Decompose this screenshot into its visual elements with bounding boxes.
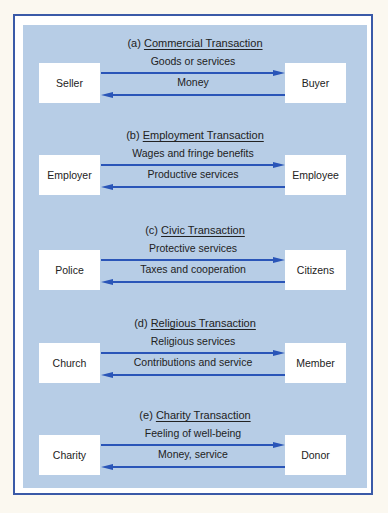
transaction-title-text: Charity Transaction <box>156 409 251 421</box>
transaction-title-text: Employment Transaction <box>143 129 264 141</box>
arrow-left-icon <box>101 371 285 379</box>
party-box-right: Donor <box>285 435 346 475</box>
party-label: Charity <box>53 449 86 461</box>
party-box-right: Buyer <box>285 63 346 103</box>
transaction-title: (e) Charity Transaction <box>23 409 367 422</box>
flow-label-to-right: Wages and fringe benefits <box>101 147 285 159</box>
party-box-right: Citizens <box>285 250 346 290</box>
party-box-left: Church <box>39 343 100 383</box>
transaction-title: (d) Religious Transaction <box>23 317 367 330</box>
party-box-left: Charity <box>39 435 100 475</box>
party-label: Police <box>55 264 84 276</box>
party-label: Citizens <box>297 264 334 276</box>
party-box-left: Police <box>39 250 100 290</box>
flow-label-to-right: Protective services <box>101 242 285 254</box>
transaction-prefix: (c) <box>145 224 158 236</box>
party-label: Employer <box>47 169 91 181</box>
transaction-prefix: (e) <box>139 409 152 421</box>
arrow-left-icon <box>101 463 285 471</box>
arrow-left-icon <box>101 91 285 99</box>
transaction-employment: (b) Employment Transaction Employer Empl… <box>23 129 367 219</box>
transaction-religious: (d) Religious Transaction Church Member … <box>23 317 367 407</box>
flow-label-to-left: Contributions and service <box>101 356 285 368</box>
flow-label-to-left: Money, service <box>101 448 285 460</box>
party-label: Buyer <box>302 77 329 89</box>
transaction-title-text: Commercial Transaction <box>144 37 263 49</box>
transaction-charity: (e) Charity Transaction Charity Donor Fe… <box>23 409 367 499</box>
transaction-civic: (c) Civic Transaction Police Citizens Pr… <box>23 224 367 314</box>
transaction-title: (c) Civic Transaction <box>23 224 367 237</box>
transaction-prefix: (b) <box>126 129 139 141</box>
party-label: Employee <box>292 169 339 181</box>
flow-label-to-right: Religious services <box>101 335 285 347</box>
transaction-title: (a) Commercial Transaction <box>23 37 367 50</box>
party-box-right: Member <box>285 343 346 383</box>
party-box-left: Employer <box>39 155 100 195</box>
party-label: Member <box>296 357 335 369</box>
arrow-left-icon <box>101 278 285 286</box>
transaction-title-text: Civic Transaction <box>161 224 245 236</box>
party-label: Donor <box>301 449 330 461</box>
transaction-title-text: Religious Transaction <box>151 317 256 329</box>
flow-label-to-right: Feeling of well-being <box>101 427 285 439</box>
transaction-commercial: (a) Commercial Transaction Seller Buyer … <box>23 37 367 127</box>
party-box-left: Seller <box>39 63 100 103</box>
party-label: Church <box>53 357 87 369</box>
party-box-right: Employee <box>285 155 346 195</box>
arrow-left-icon <box>101 183 285 191</box>
flow-label-to-left: Taxes and cooperation <box>101 263 285 275</box>
transaction-prefix: (a) <box>127 37 140 49</box>
flow-label-to-left: Money <box>101 76 285 88</box>
party-label: Seller <box>56 77 83 89</box>
flow-label-to-left: Productive services <box>101 168 285 180</box>
transaction-prefix: (d) <box>134 317 147 329</box>
flow-label-to-right: Goods or services <box>101 55 285 67</box>
transaction-title: (b) Employment Transaction <box>23 129 367 142</box>
